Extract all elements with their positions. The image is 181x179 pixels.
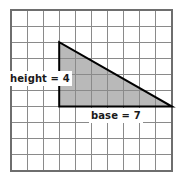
height-measure-label: height = 4 [8, 71, 72, 86]
base-measure-label: base = 7 [89, 108, 143, 123]
geometry-canvas [0, 0, 181, 179]
geometry-figure: height = 4 base = 7 [0, 0, 181, 179]
